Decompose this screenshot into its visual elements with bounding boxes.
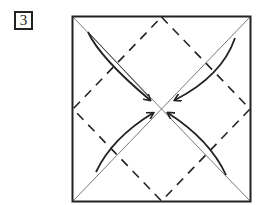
arrow-bottom-right-icon bbox=[168, 113, 226, 175]
origami-diagram bbox=[0, 0, 268, 205]
arrow-top-left-icon bbox=[88, 32, 150, 100]
arrow-top-right-icon bbox=[175, 38, 235, 100]
